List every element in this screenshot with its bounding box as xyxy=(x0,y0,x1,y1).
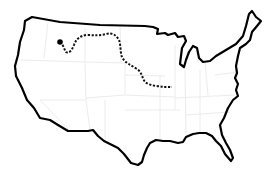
us-map xyxy=(0,0,278,184)
us-map-svg xyxy=(0,0,278,184)
route-dashed-line xyxy=(60,33,172,87)
route-start-dot xyxy=(57,39,63,45)
us-outline xyxy=(15,11,261,165)
